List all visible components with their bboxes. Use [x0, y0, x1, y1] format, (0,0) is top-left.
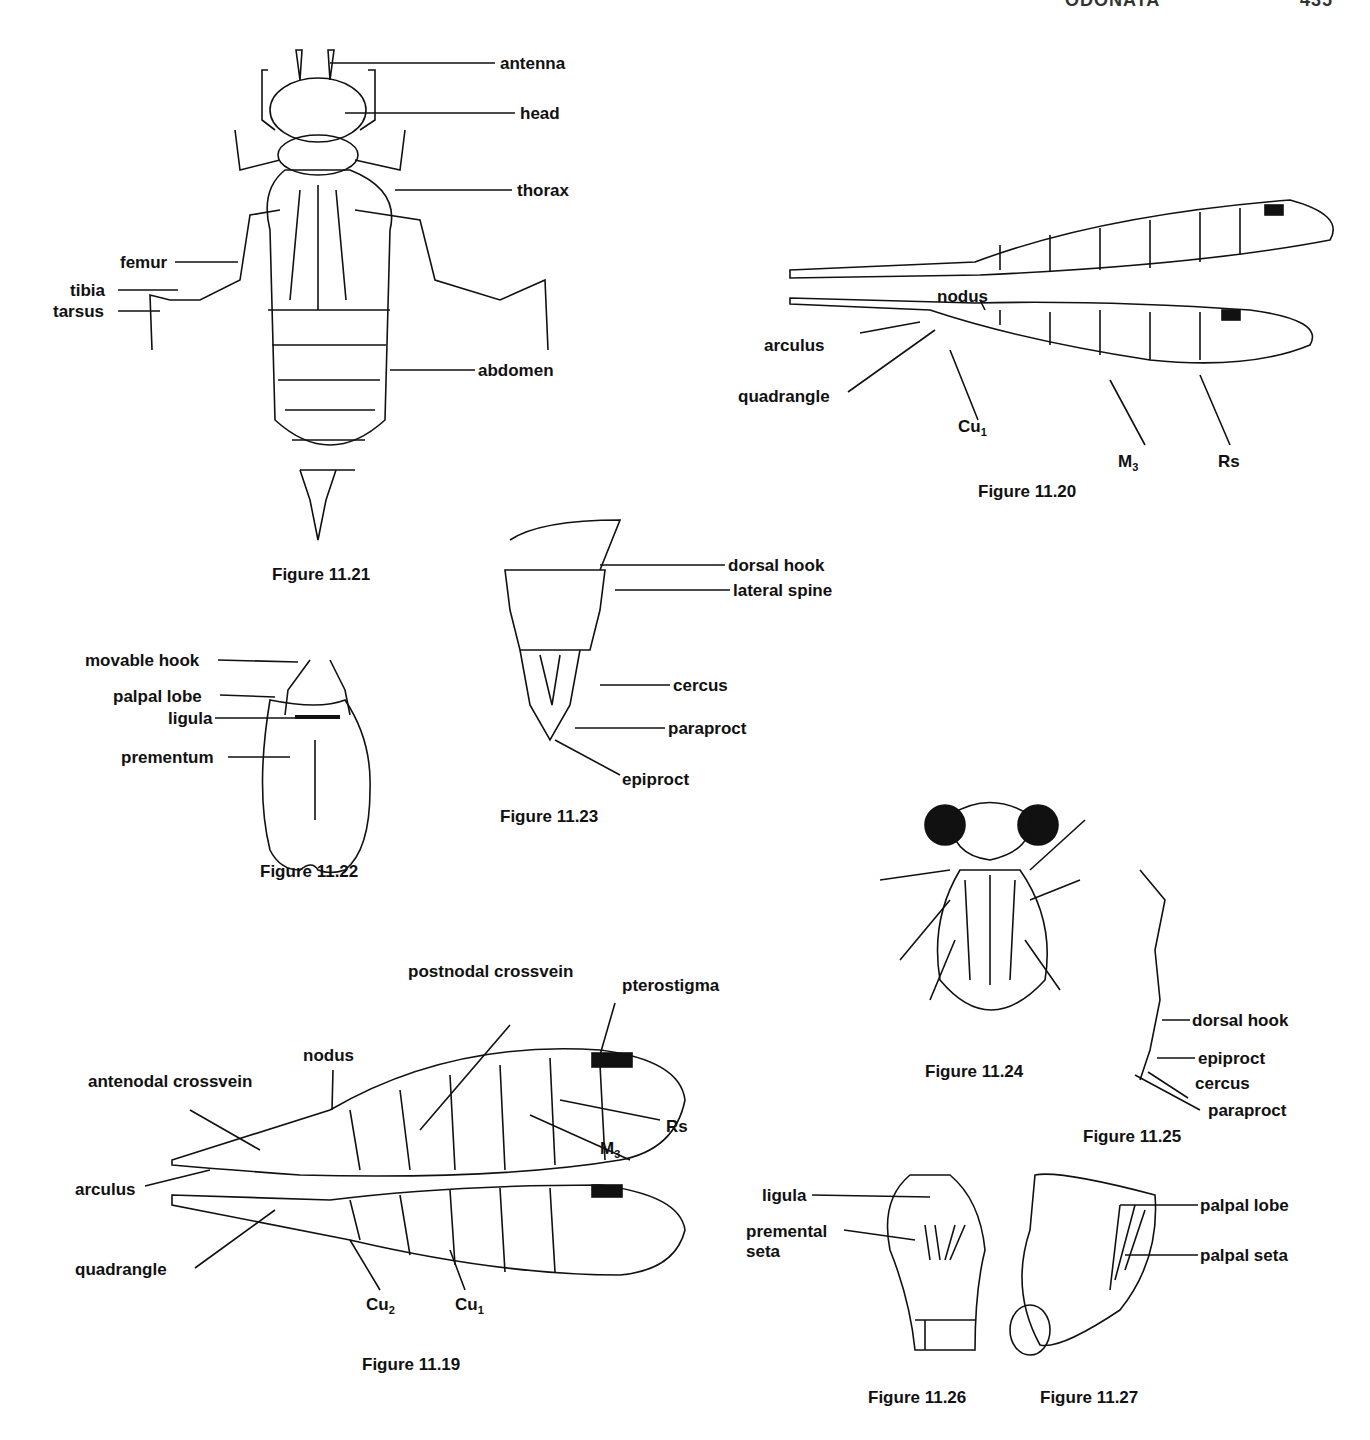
label-quadrangle-19: quadrangle [75, 1261, 167, 1278]
label-pterostigma: pterostigma [622, 977, 719, 994]
label-cu1: Cu1 [958, 418, 987, 438]
label-thorax: thorax [517, 182, 569, 199]
label-antenna: antenna [500, 55, 565, 72]
nymph-illustration-11-21 [118, 50, 548, 540]
label-cu1-19-text: Cu [455, 1295, 478, 1314]
label-rs: Rs [1218, 453, 1240, 470]
caption-figure-11-24: Figure 11.24 [925, 1062, 1023, 1082]
label-nodus-19: nodus [303, 1047, 354, 1064]
label-cu1-text: Cu [958, 417, 981, 436]
label-abdomen: abdomen [478, 362, 554, 379]
label-m3-19-text: M [600, 1139, 614, 1158]
label-lateral-spine: lateral spine [733, 582, 832, 599]
labium-illustration-11-22 [215, 660, 370, 873]
label-quadrangle: quadrangle [738, 388, 830, 405]
label-antenodal-crossvein: antenodal crossvein [88, 1073, 252, 1090]
caption-figure-11-21: Figure 11.21 [272, 565, 370, 585]
label-cercus-25: cercus [1195, 1075, 1250, 1092]
label-premental-line2: seta [746, 1242, 827, 1262]
caption-figure-11-27: Figure 11.27 [1040, 1388, 1138, 1408]
caption-figure-11-20: Figure 11.20 [978, 482, 1076, 502]
label-premental-line1: premental [746, 1222, 827, 1242]
caption-figure-11-23: Figure 11.23 [500, 807, 598, 827]
label-dorsal-hook-23: dorsal hook [728, 557, 824, 574]
label-premental-seta: premental seta [746, 1222, 827, 1263]
label-paraproct-25: paraproct [1208, 1102, 1286, 1119]
label-m3-19: M3 [600, 1140, 620, 1160]
label-cu2-subscript: 2 [389, 1304, 395, 1316]
caption-figure-11-19: Figure 11.19 [362, 1355, 460, 1375]
label-ligula: ligula [168, 710, 212, 727]
labium-illustrations-11-26-11-27 [812, 1174, 1198, 1355]
label-tibia: tibia [70, 282, 105, 299]
label-ligula-26: ligula [762, 1187, 806, 1204]
caption-figure-11-25: Figure 11.25 [1083, 1127, 1181, 1147]
label-epiproct-25: epiproct [1198, 1050, 1265, 1067]
label-dorsal-hook-25: dorsal hook [1192, 1012, 1288, 1029]
caption-figure-11-22: Figure 11.22 [260, 862, 358, 882]
label-cu2-text: Cu [366, 1295, 389, 1314]
label-arculus-19: arculus [75, 1181, 135, 1198]
label-cu1-subscript: 1 [981, 426, 987, 438]
label-arculus: arculus [764, 337, 824, 354]
label-movable-hook: movable hook [85, 652, 199, 669]
label-femur: femur [120, 254, 167, 271]
label-m3: M3 [1118, 453, 1138, 473]
label-cu2: Cu2 [366, 1296, 395, 1316]
label-cu1-19: Cu1 [455, 1296, 484, 1316]
label-palpal-lobe: palpal lobe [113, 688, 202, 705]
label-prementum: prementum [121, 749, 214, 766]
label-epiproct-23: epiproct [622, 771, 689, 788]
label-paraproct-23: paraproct [668, 720, 746, 737]
label-cercus-23: cercus [673, 677, 728, 694]
label-m3-subscript: 3 [1132, 461, 1138, 473]
label-head: head [520, 105, 560, 122]
label-palpal-seta: palpal seta [1200, 1247, 1288, 1264]
label-nodus: nodus [937, 288, 988, 305]
label-m3-text: M [1118, 452, 1132, 471]
wings-illustration-11-20 [790, 200, 1333, 445]
label-palpal-lobe-27: palpal lobe [1200, 1197, 1289, 1214]
caption-figure-11-26: Figure 11.26 [868, 1388, 966, 1408]
label-rs-19: Rs [666, 1118, 688, 1135]
label-postnodal-crossvein: postnodal crossvein [408, 963, 573, 980]
label-m3-19-subscript: 3 [614, 1148, 620, 1160]
label-cu1-19-subscript: 1 [478, 1304, 484, 1316]
label-tarsus: tarsus [53, 303, 104, 320]
